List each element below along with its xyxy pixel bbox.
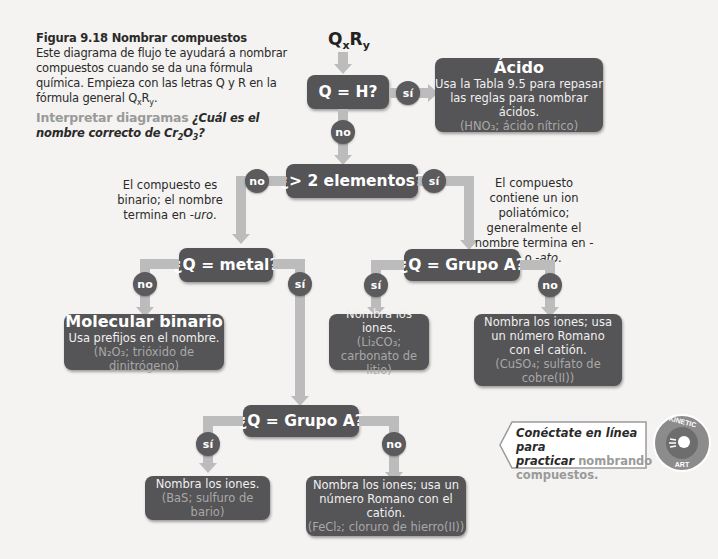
arrow-down-icon <box>334 64 352 74</box>
result-polyatomic-grupo-a: Nombra los iones. (Li₂CO₃; carbonato de … <box>329 314 429 370</box>
svg-text:ART: ART <box>675 461 690 468</box>
decision-q-equals-h: Q = H? <box>307 75 389 109</box>
decision-q-metal: ¿Q = metal? <box>179 248 273 282</box>
no-badge: no <box>382 432 406 456</box>
arrow-down-icon <box>199 463 217 473</box>
interpret-label: Interpretar diagramas <box>36 110 189 125</box>
result-example: (Li₂CO₃; carbonato de litio) <box>329 335 429 377</box>
result-binary-grupo-a: Nombra los iones. (BaS; sulfuro de bario… <box>145 476 270 520</box>
result-example: (CuSO₄; sulfato de cobre(II)) <box>474 357 622 385</box>
figure-caption: Figura 9.18 Nombrar compuestos Este diag… <box>36 31 296 146</box>
result-text: Nombra los iones; usa un número Romano c… <box>474 315 622 357</box>
result-text: Usa prefijos en el nombre. <box>68 331 219 345</box>
result-polyatomic-not-grupo-a: Nombra los iones; usa un número Romano c… <box>474 314 622 386</box>
yes-badge: sí <box>422 169 446 193</box>
note-binary: El compuesto es binario; el nombre termi… <box>110 178 230 223</box>
yes-badge: sí <box>196 432 220 456</box>
result-acido: Ácido Usa la Tabla 9.5 para repasar las … <box>435 58 603 132</box>
result-example: (FeCl₂; cloruro de hierro(II)) <box>308 520 465 534</box>
start-formula: QxRy <box>328 29 370 52</box>
result-example: (HNO₃; ácido nítrico) <box>460 119 578 133</box>
kinetic-art-badge-icon[interactable]: KINETIC ART <box>652 413 712 473</box>
connector <box>236 176 246 236</box>
result-text: Usa la Tabla 9.5 para repasar las reglas… <box>435 77 603 119</box>
decision-more-than-two-elements: ¿> 2 elementos? <box>286 164 418 198</box>
figure-title: Figura 9.18 Nombrar compuestos <box>36 31 296 46</box>
no-badge: no <box>133 272 157 296</box>
online-practice-link[interactable]: Conéctate en línea para practicar nombra… <box>498 420 663 470</box>
yes-badge: sí <box>396 81 420 105</box>
figure-description: Este diagrama de flujo te ayudará a nomb… <box>36 46 296 110</box>
decision-q-grupo-a-polyatomic: ¿Q = Grupo A? <box>404 249 520 281</box>
no-badge: no <box>538 273 562 297</box>
result-example: (BaS; sulfuro de bario) <box>145 491 270 519</box>
no-badge: no <box>331 120 355 144</box>
decision-q-grupo-a-binary: ¿Q = Grupo A? <box>243 405 359 437</box>
result-text: Nombra los iones. <box>329 307 429 335</box>
arrow-down-icon <box>232 234 250 244</box>
result-binary-not-grupo-a: Nombra los iones; usa un número Romano c… <box>306 476 466 536</box>
result-example: (N₂O₃; trióxido de dinitrógeno) <box>64 345 224 373</box>
yes-badge: sí <box>364 273 388 297</box>
result-text: Nombra los iones. <box>156 477 260 491</box>
result-text: Nombra los iones; usa un número Romano c… <box>306 478 466 520</box>
result-title: Molecular binario <box>65 312 222 331</box>
no-badge: no <box>245 169 269 193</box>
result-molecular-binario: Molecular binario Usa prefijos en el nom… <box>64 314 224 370</box>
yes-badge: sí <box>288 272 312 296</box>
online-practice-text: Conéctate en línea para practicar nombra… <box>516 426 663 482</box>
result-title: Ácido <box>494 58 544 77</box>
